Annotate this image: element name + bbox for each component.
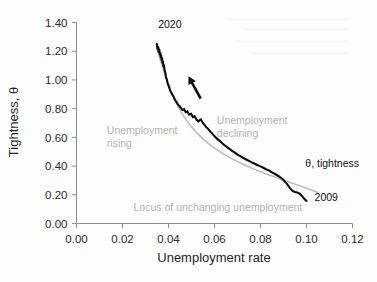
direction-arrow-shaft bbox=[191, 81, 201, 99]
x-tick-label: 0.08 bbox=[249, 233, 271, 245]
annotation-unemployment-declining: Unemploymentdeclining bbox=[217, 114, 288, 139]
annotation-line: 2020 bbox=[158, 18, 182, 30]
x-axis-tick-marks bbox=[77, 224, 353, 229]
annotation-line: declining bbox=[217, 127, 259, 139]
annotation-series-label: θ, tightness bbox=[305, 157, 359, 169]
x-tick-label: 0.02 bbox=[111, 233, 133, 245]
chart-svg: 0.000.200.400.600.801.001.201.40 0.000.0… bbox=[0, 0, 377, 282]
x-tick-label: 0.06 bbox=[203, 233, 225, 245]
y-tick-label: 0.40 bbox=[45, 160, 67, 172]
annotation-line: θ, tightness bbox=[305, 157, 359, 169]
y-tick-label: 1.40 bbox=[45, 17, 67, 29]
annotation-unemployment-rising: Unemploymentrising bbox=[107, 124, 178, 149]
annotation-line: Unemployment bbox=[107, 124, 178, 136]
y-tick-label: 0.20 bbox=[45, 189, 67, 201]
x-tick-label: 0.04 bbox=[157, 233, 180, 245]
x-axis-title: Unemployment rate bbox=[157, 250, 270, 265]
x-tick-label: 0.00 bbox=[65, 233, 87, 245]
annotation-line: rising bbox=[107, 137, 132, 149]
y-tick-label: 0.80 bbox=[45, 103, 67, 115]
y-tick-label: 0.60 bbox=[45, 132, 67, 144]
x-axis-tick-labels: 0.000.020.040.060.080.100.12 bbox=[65, 233, 363, 245]
annotation-start-year: 2020 bbox=[158, 18, 182, 30]
annotation-line: Locus of unchanging unemployment bbox=[134, 201, 303, 213]
scan-artifact-group bbox=[228, 18, 348, 55]
beveridge-curve-chart: 0.000.200.400.600.801.001.201.40 0.000.0… bbox=[0, 0, 377, 282]
y-axis-tick-marks bbox=[72, 23, 77, 224]
y-tick-label: 1.00 bbox=[45, 74, 67, 86]
y-tick-label: 1.20 bbox=[45, 45, 67, 57]
y-axis-title: Tightness, θ bbox=[6, 87, 21, 157]
annotation-layer: 20202009θ, tightnessUnemploymentrisingUn… bbox=[107, 18, 359, 213]
annotation-locus-label: Locus of unchanging unemployment bbox=[134, 201, 303, 213]
annotation-end-year: 2009 bbox=[315, 191, 339, 203]
x-tick-label: 0.10 bbox=[295, 233, 317, 245]
y-tick-label: 0.00 bbox=[45, 218, 67, 230]
y-axis-tick-labels: 0.000.200.400.600.801.001.201.40 bbox=[45, 17, 67, 230]
annotation-line: 2009 bbox=[315, 191, 339, 203]
direction-arrow bbox=[188, 76, 200, 98]
x-tick-label: 0.12 bbox=[341, 233, 363, 245]
annotation-line: Unemployment bbox=[217, 114, 288, 126]
